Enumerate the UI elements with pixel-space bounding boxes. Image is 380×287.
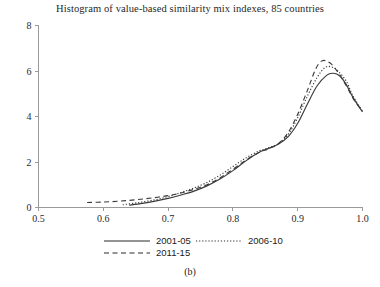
y-tick-label: 4	[27, 111, 32, 122]
curve-2001-05	[129, 73, 362, 205]
x-tick-label: 0.9	[291, 213, 304, 224]
chart-plot: 02468 0.50.60.70.80.91.0 2001-052006-102…	[0, 0, 380, 287]
legend-label-2011-15: 2011-15	[156, 247, 190, 258]
x-tick-label: 1.0	[356, 213, 369, 224]
x-axis-ticks: 0.50.60.70.80.91.0	[32, 208, 369, 224]
figure-panel: Histogram of value-based similarity mix …	[0, 0, 380, 287]
curve-2006-10	[123, 66, 363, 204]
legend-label-2006-10: 2006-10	[248, 235, 283, 246]
panel-caption: (b)	[0, 266, 380, 277]
chart-legend: 2001-052006-102011-15	[104, 235, 283, 258]
y-tick-label: 2	[27, 157, 32, 168]
x-tick-label: 0.6	[97, 213, 110, 224]
y-tick-label: 0	[27, 202, 32, 213]
x-tick-label: 0.7	[162, 213, 175, 224]
y-tick-label: 8	[27, 20, 32, 31]
data-curves	[87, 60, 362, 205]
curve-2011-15	[87, 60, 362, 202]
x-tick-label: 0.5	[32, 213, 45, 224]
legend-label-2001-05: 2001-05	[156, 235, 191, 246]
y-axis-ticks: 02468	[27, 20, 39, 213]
x-tick-label: 0.8	[227, 213, 240, 224]
y-tick-label: 6	[27, 66, 32, 77]
